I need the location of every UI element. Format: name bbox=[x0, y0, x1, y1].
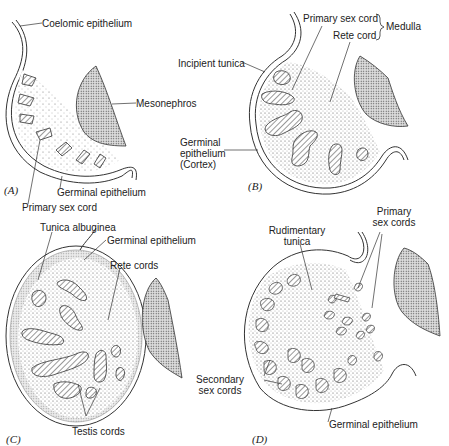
panel-b-drawing bbox=[224, 12, 408, 194]
panel-a-drawing bbox=[6, 20, 136, 204]
label-rete-cord: Rete cord bbox=[333, 30, 376, 41]
label-primary-sex-cord-a: Primary sex cord bbox=[22, 202, 97, 213]
label-germinal-epithelium-a: Germinal epithelium bbox=[57, 187, 146, 198]
label-germinal-epithelium-b-line1: Germinal bbox=[180, 137, 221, 148]
label-rete-cords: Rete cords bbox=[110, 260, 158, 271]
panel-letter-b: (B) bbox=[248, 180, 262, 192]
label-medulla: Medulla bbox=[386, 21, 421, 32]
label-incipient-tunica: Incipient tunica bbox=[178, 58, 245, 69]
label-germinal-epithelium-c: Germinal epithelium bbox=[107, 235, 196, 246]
label-primary-sex-cords-line2: sex cords bbox=[364, 217, 424, 228]
panel-letter-d: (D) bbox=[252, 433, 267, 445]
label-tunica-albuginea: Tunica albuginea bbox=[40, 222, 116, 233]
label-cortex: (Cortex) bbox=[180, 159, 216, 170]
panel-c-drawing bbox=[6, 228, 182, 426]
panel-letter-a: (A) bbox=[4, 184, 18, 196]
panel-d-drawing bbox=[244, 232, 440, 422]
label-testis-cords: Testis cords bbox=[72, 426, 125, 437]
label-rudimentary-tunica-line1: Rudimentary bbox=[262, 225, 332, 236]
gonad-differentiation-figure: Coelomic epithelium Mesonephros Germinal… bbox=[0, 0, 449, 446]
label-secondary-sex-cords-line1: Secondary bbox=[190, 374, 250, 385]
label-secondary-sex-cords-line2: sex cords bbox=[190, 385, 250, 396]
label-rudimentary-tunica-line2: tunica bbox=[262, 236, 332, 247]
label-germinal-epithelium-d: Germinal epithelium bbox=[329, 419, 418, 430]
label-coelomic-epithelium: Coelomic epithelium bbox=[42, 18, 132, 29]
label-mesonephros: Mesonephros bbox=[136, 98, 197, 109]
label-germinal-epithelium-b-line2: epithelium bbox=[180, 148, 226, 159]
label-primary-sex-cords-line1: Primary bbox=[364, 206, 424, 217]
panel-letter-c: (C) bbox=[6, 433, 21, 445]
label-primary-sex-cord-b: Primary sex cord bbox=[303, 13, 378, 24]
